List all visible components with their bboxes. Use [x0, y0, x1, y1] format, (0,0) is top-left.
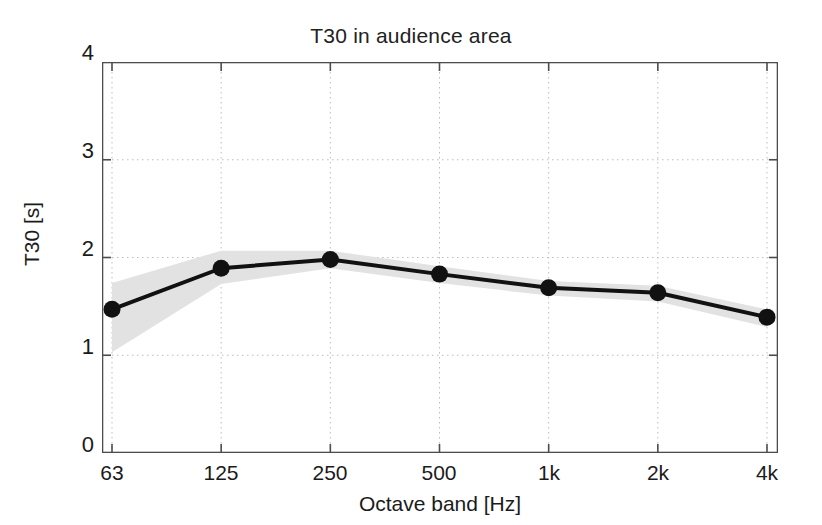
y-tick-1: 1	[54, 336, 94, 358]
x-axis-tick-labels: 63 125 250 500 1k 2k 4k	[102, 462, 778, 492]
x-tick-125: 125	[176, 462, 266, 483]
x-tick-500: 500	[394, 462, 484, 483]
y-axis-tick-labels: 0 1 2 3 4	[46, 62, 94, 453]
plot-area	[102, 62, 778, 453]
x-tick-63: 63	[67, 462, 157, 483]
x-tick-4k: 4k	[722, 462, 812, 483]
y-tick-2: 2	[54, 238, 94, 260]
x-tick-2k: 2k	[613, 462, 703, 483]
x-tick-250: 250	[285, 462, 375, 483]
y-tick-4: 4	[54, 42, 94, 64]
y-tick-3: 3	[54, 140, 94, 162]
y-axis-label: T30 [s]	[20, 174, 44, 294]
chart-figure: T30 in audience area T30 [s] 0 1 2 3 4 6…	[0, 0, 822, 525]
x-tick-1k: 1k	[504, 462, 594, 483]
chart-title: T30 in audience area	[0, 24, 822, 48]
x-axis-label: Octave band [Hz]	[102, 492, 778, 516]
plot-svg	[102, 62, 778, 453]
y-tick-0: 0	[54, 434, 94, 456]
